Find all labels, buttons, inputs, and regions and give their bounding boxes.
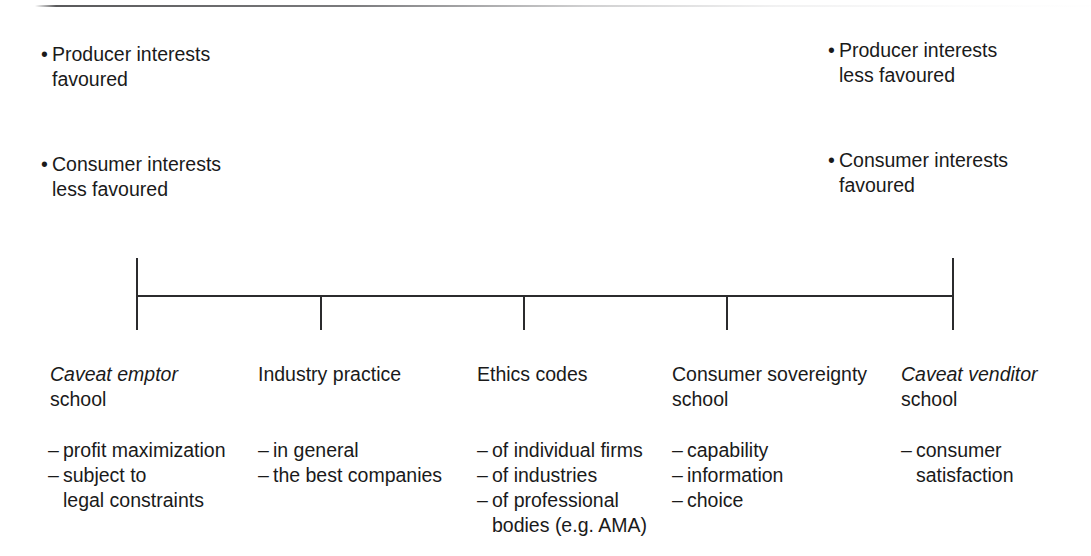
list-item-text: the best companies [273, 464, 442, 486]
axis-tick-3 [523, 295, 525, 330]
scan-edge-artifact [35, 5, 1091, 7]
list-item: –profit maximization [48, 438, 226, 463]
bullet-text-line2: less favoured [41, 177, 221, 202]
dash-marker-icon: – [477, 488, 492, 513]
column-details-1: –profit maximization –subject to legal c… [48, 438, 226, 513]
column-subtitle: school [50, 387, 178, 412]
bullet-row: •Producer interests [828, 38, 997, 63]
dash-marker-icon: – [258, 463, 273, 488]
dash-marker-icon: – [901, 438, 916, 463]
list-item-text: of individual firms [492, 439, 643, 461]
dash-marker-icon: – [477, 463, 492, 488]
column-title: Industry practice [258, 362, 401, 387]
list-item-text: information [687, 464, 783, 486]
column-title: Consumer sovereignty [672, 362, 867, 387]
list-item-text: of professional [492, 489, 619, 511]
axis-tick-5 [952, 258, 954, 330]
list-item-text: of industries [492, 464, 597, 486]
list-item-text: capability [687, 439, 768, 461]
column-details-5: –consumer satisfaction [901, 438, 1014, 488]
endpoint-bullet-left-consumer: •Consumer interests less favoured [41, 152, 221, 202]
dash-marker-icon: – [48, 463, 63, 488]
column-heading-2: Industry practice [258, 362, 401, 387]
list-item-text: in general [273, 439, 359, 461]
column-heading-3: Ethics codes [477, 362, 588, 387]
list-item: –the best companies [258, 463, 442, 488]
bullet-row: •Consumer interests [41, 152, 221, 177]
endpoint-bullet-left-producer: •Producer interests favoured [41, 42, 210, 92]
bullet-dot-icon: • [828, 38, 839, 63]
dash-marker-icon: – [672, 438, 687, 463]
bullet-text-line1: Producer interests [839, 39, 997, 61]
column-subtitle: school [672, 387, 867, 412]
bullet-row: •Producer interests [41, 42, 210, 67]
list-item: –subject to [48, 463, 226, 488]
dash-marker-icon: – [477, 438, 492, 463]
dash-marker-icon: – [258, 438, 273, 463]
list-item: –of professional [477, 488, 647, 513]
column-subtitle: school [901, 387, 1038, 412]
bullet-text-line1: Consumer interests [52, 153, 221, 175]
list-item-text: subject to [63, 464, 146, 486]
bullet-text-line1: Consumer interests [839, 149, 1008, 171]
list-item-text: profit maximization [63, 439, 226, 461]
axis-tick-2 [320, 295, 322, 330]
list-item-continuation: satisfaction [901, 463, 1014, 488]
column-details-2: –in general –the best companies [258, 438, 442, 488]
list-item: –choice [672, 488, 783, 513]
column-heading-4: Consumer sovereignty school [672, 362, 867, 412]
bullet-text-line2: favoured [828, 173, 1008, 198]
bullet-dot-icon: • [828, 148, 839, 173]
column-title: Caveat emptor [50, 362, 178, 387]
continuum-figure: •Producer interests favoured •Consumer i… [0, 0, 1091, 556]
bullet-dot-icon: • [41, 152, 52, 177]
bullet-text-line2: favoured [41, 67, 210, 92]
dash-marker-icon: – [672, 463, 687, 488]
column-details-4: –capability –information –choice [672, 438, 783, 513]
list-item: –capability [672, 438, 783, 463]
column-heading-5: Caveat venditor school [901, 362, 1038, 412]
list-item: –in general [258, 438, 442, 463]
list-item: –information [672, 463, 783, 488]
column-details-3: –of individual firms –of industries –of … [477, 438, 647, 538]
bullet-text-line2: less favoured [828, 63, 997, 88]
list-item-continuation: legal constraints [48, 488, 226, 513]
column-title: Caveat venditor [901, 362, 1038, 387]
endpoint-bullet-right-consumer: •Consumer interests favoured [828, 148, 1008, 198]
list-item-continuation: bodies (e.g. AMA) [477, 513, 647, 538]
dash-marker-icon: – [672, 488, 687, 513]
bullet-row: •Consumer interests [828, 148, 1008, 173]
axis-tick-1 [136, 258, 138, 330]
axis-tick-4 [726, 295, 728, 330]
bullet-dot-icon: • [41, 42, 52, 67]
list-item-text: consumer [916, 439, 1002, 461]
list-item: –of industries [477, 463, 647, 488]
bullet-text-line1: Producer interests [52, 43, 210, 65]
list-item: –of individual firms [477, 438, 647, 463]
list-item-text: choice [687, 489, 743, 511]
endpoint-bullet-right-producer: •Producer interests less favoured [828, 38, 997, 88]
list-item: –consumer [901, 438, 1014, 463]
column-title: Ethics codes [477, 362, 588, 387]
column-heading-1: Caveat emptor school [50, 362, 178, 412]
continuum-axis-line [136, 295, 953, 297]
dash-marker-icon: – [48, 438, 63, 463]
